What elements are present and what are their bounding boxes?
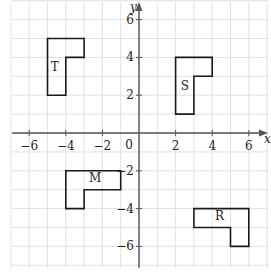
x-tick-label: −6 bbox=[20, 139, 38, 153]
x-tick-label: 4 bbox=[208, 139, 216, 153]
shape-label: R bbox=[215, 209, 225, 223]
x-tick-label: −4 bbox=[57, 139, 75, 153]
shape-label: S bbox=[181, 79, 189, 93]
y-tick-label: 4 bbox=[126, 50, 134, 64]
shape-label: T bbox=[51, 60, 59, 74]
x-tick-label: −2 bbox=[94, 139, 112, 153]
y-tick-label: −4 bbox=[116, 202, 134, 216]
y-tick-label: 2 bbox=[126, 88, 134, 102]
y-tick-label: −6 bbox=[116, 239, 134, 253]
shapes: TSMR bbox=[48, 39, 249, 247]
x-tick-label: 2 bbox=[172, 139, 180, 153]
coordinate-grid-diagram: −6−4−2246−6−4−22460xy TSMR bbox=[0, 0, 271, 273]
shape-label: M bbox=[89, 171, 101, 185]
y-tick-label: 6 bbox=[126, 13, 134, 27]
y-axis-label: y bbox=[129, 0, 137, 14]
origin-label: 0 bbox=[125, 138, 133, 152]
x-tick-label: 6 bbox=[245, 139, 253, 153]
x-axis-label: x bbox=[264, 132, 271, 146]
